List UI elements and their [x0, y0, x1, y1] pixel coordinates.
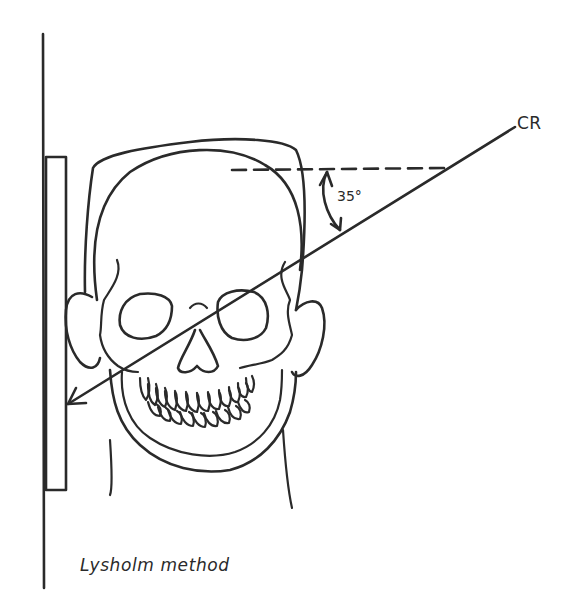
image-receptor	[46, 157, 66, 490]
central-ray-label: CR	[517, 113, 542, 133]
teeth	[140, 376, 254, 427]
right-orbit	[218, 290, 268, 339]
right-ear	[292, 301, 324, 375]
angle-label: 35°	[337, 188, 362, 204]
head-outline	[85, 139, 305, 310]
horizontal-reference-line	[232, 168, 448, 170]
diagram-caption: Lysholm method	[80, 555, 230, 575]
lysholm-diagram	[0, 0, 578, 612]
left-orbit	[120, 294, 172, 339]
vertical-support-line	[43, 34, 44, 588]
nasal-bridge	[190, 304, 207, 309]
neck-left	[110, 440, 112, 495]
nasal-cavity	[178, 330, 218, 372]
angle-arrow-top	[320, 172, 332, 186]
neck-right	[283, 430, 292, 508]
left-ear	[66, 293, 100, 368]
right-zygoma	[240, 262, 292, 368]
